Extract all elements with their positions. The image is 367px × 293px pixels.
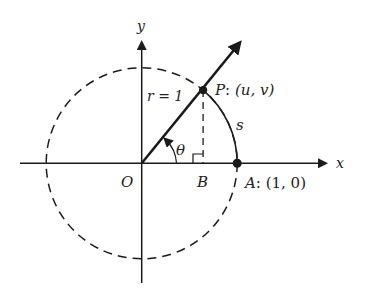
point-A xyxy=(233,159,242,168)
radius-ray xyxy=(142,45,238,163)
y-axis-label: y xyxy=(136,18,146,34)
unit-circle-diagram: y x O r = 1 θ s B P: (u, v) A: (1, 0) xyxy=(0,0,367,293)
x-axis-label: x xyxy=(336,155,344,171)
angle-arc-theta xyxy=(166,140,177,163)
angle-label: θ xyxy=(176,141,185,159)
arc-s xyxy=(203,90,237,163)
radius-label: r = 1 xyxy=(147,88,183,104)
origin-label: O xyxy=(121,173,133,191)
right-angle-mark xyxy=(193,154,203,163)
arc-label: s xyxy=(236,116,244,134)
point-A-label: A: (1, 0) xyxy=(243,174,306,192)
point-P xyxy=(199,86,207,94)
point-P-label: P: (u, v) xyxy=(214,81,274,99)
point-B-label: B xyxy=(196,173,208,191)
